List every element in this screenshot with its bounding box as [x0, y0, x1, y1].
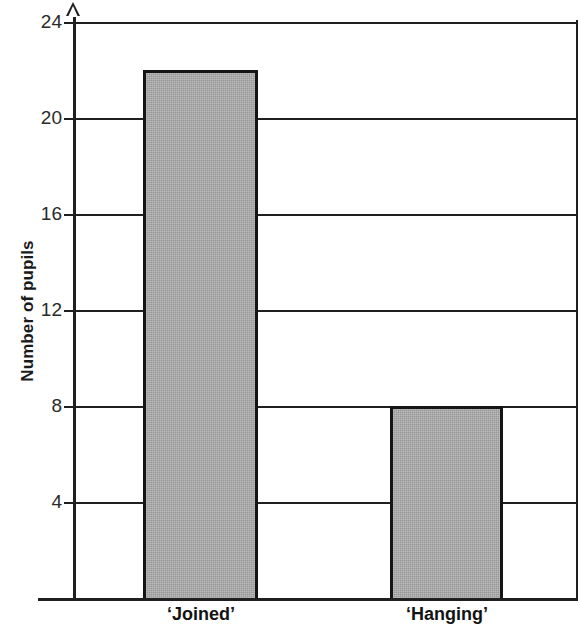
- y-axis-title: Number of pupils: [18, 191, 38, 431]
- y-tick-label-4: 4: [14, 492, 62, 511]
- plot-area: 24 20 16 12 8 4 ‘Joined’ ‘Hanging’: [0, 0, 581, 630]
- tick-mark-16: [64, 214, 84, 216]
- y-axis-line: [73, 14, 76, 599]
- y-tick-label-24: 24: [14, 12, 62, 31]
- y-axis-arrow-icon: [66, 2, 80, 16]
- x-category-label-joined: ‘Joined’: [130, 604, 272, 625]
- tick-mark-24: [64, 22, 84, 24]
- bar-hanging: [390, 406, 503, 601]
- tick-mark-20: [64, 118, 84, 120]
- plot-right-border: [576, 20, 578, 600]
- tick-mark-4: [64, 502, 84, 504]
- gridline-24: [74, 22, 578, 24]
- bar-chart: 24 20 16 12 8 4 ‘Joined’ ‘Hanging’ Numbe…: [0, 0, 581, 630]
- x-category-label-hanging: ‘Hanging’: [376, 604, 518, 625]
- y-tick-label-20: 20: [14, 108, 62, 127]
- tick-mark-8: [64, 406, 84, 408]
- tick-mark-12: [64, 310, 84, 312]
- bar-joined: [143, 70, 258, 601]
- x-axis-baseline: [38, 598, 578, 601]
